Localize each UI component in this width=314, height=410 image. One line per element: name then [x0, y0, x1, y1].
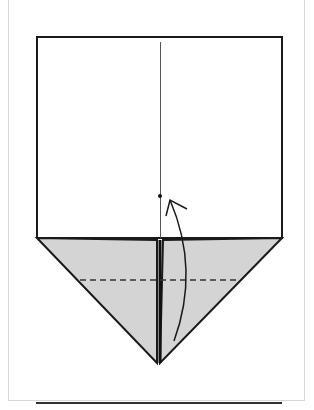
- left-flap: [37, 238, 157, 363]
- origami-diagram: [0, 0, 314, 410]
- paper-square: [37, 37, 282, 238]
- right-flap: [160, 238, 282, 363]
- reference-dot: [158, 194, 162, 198]
